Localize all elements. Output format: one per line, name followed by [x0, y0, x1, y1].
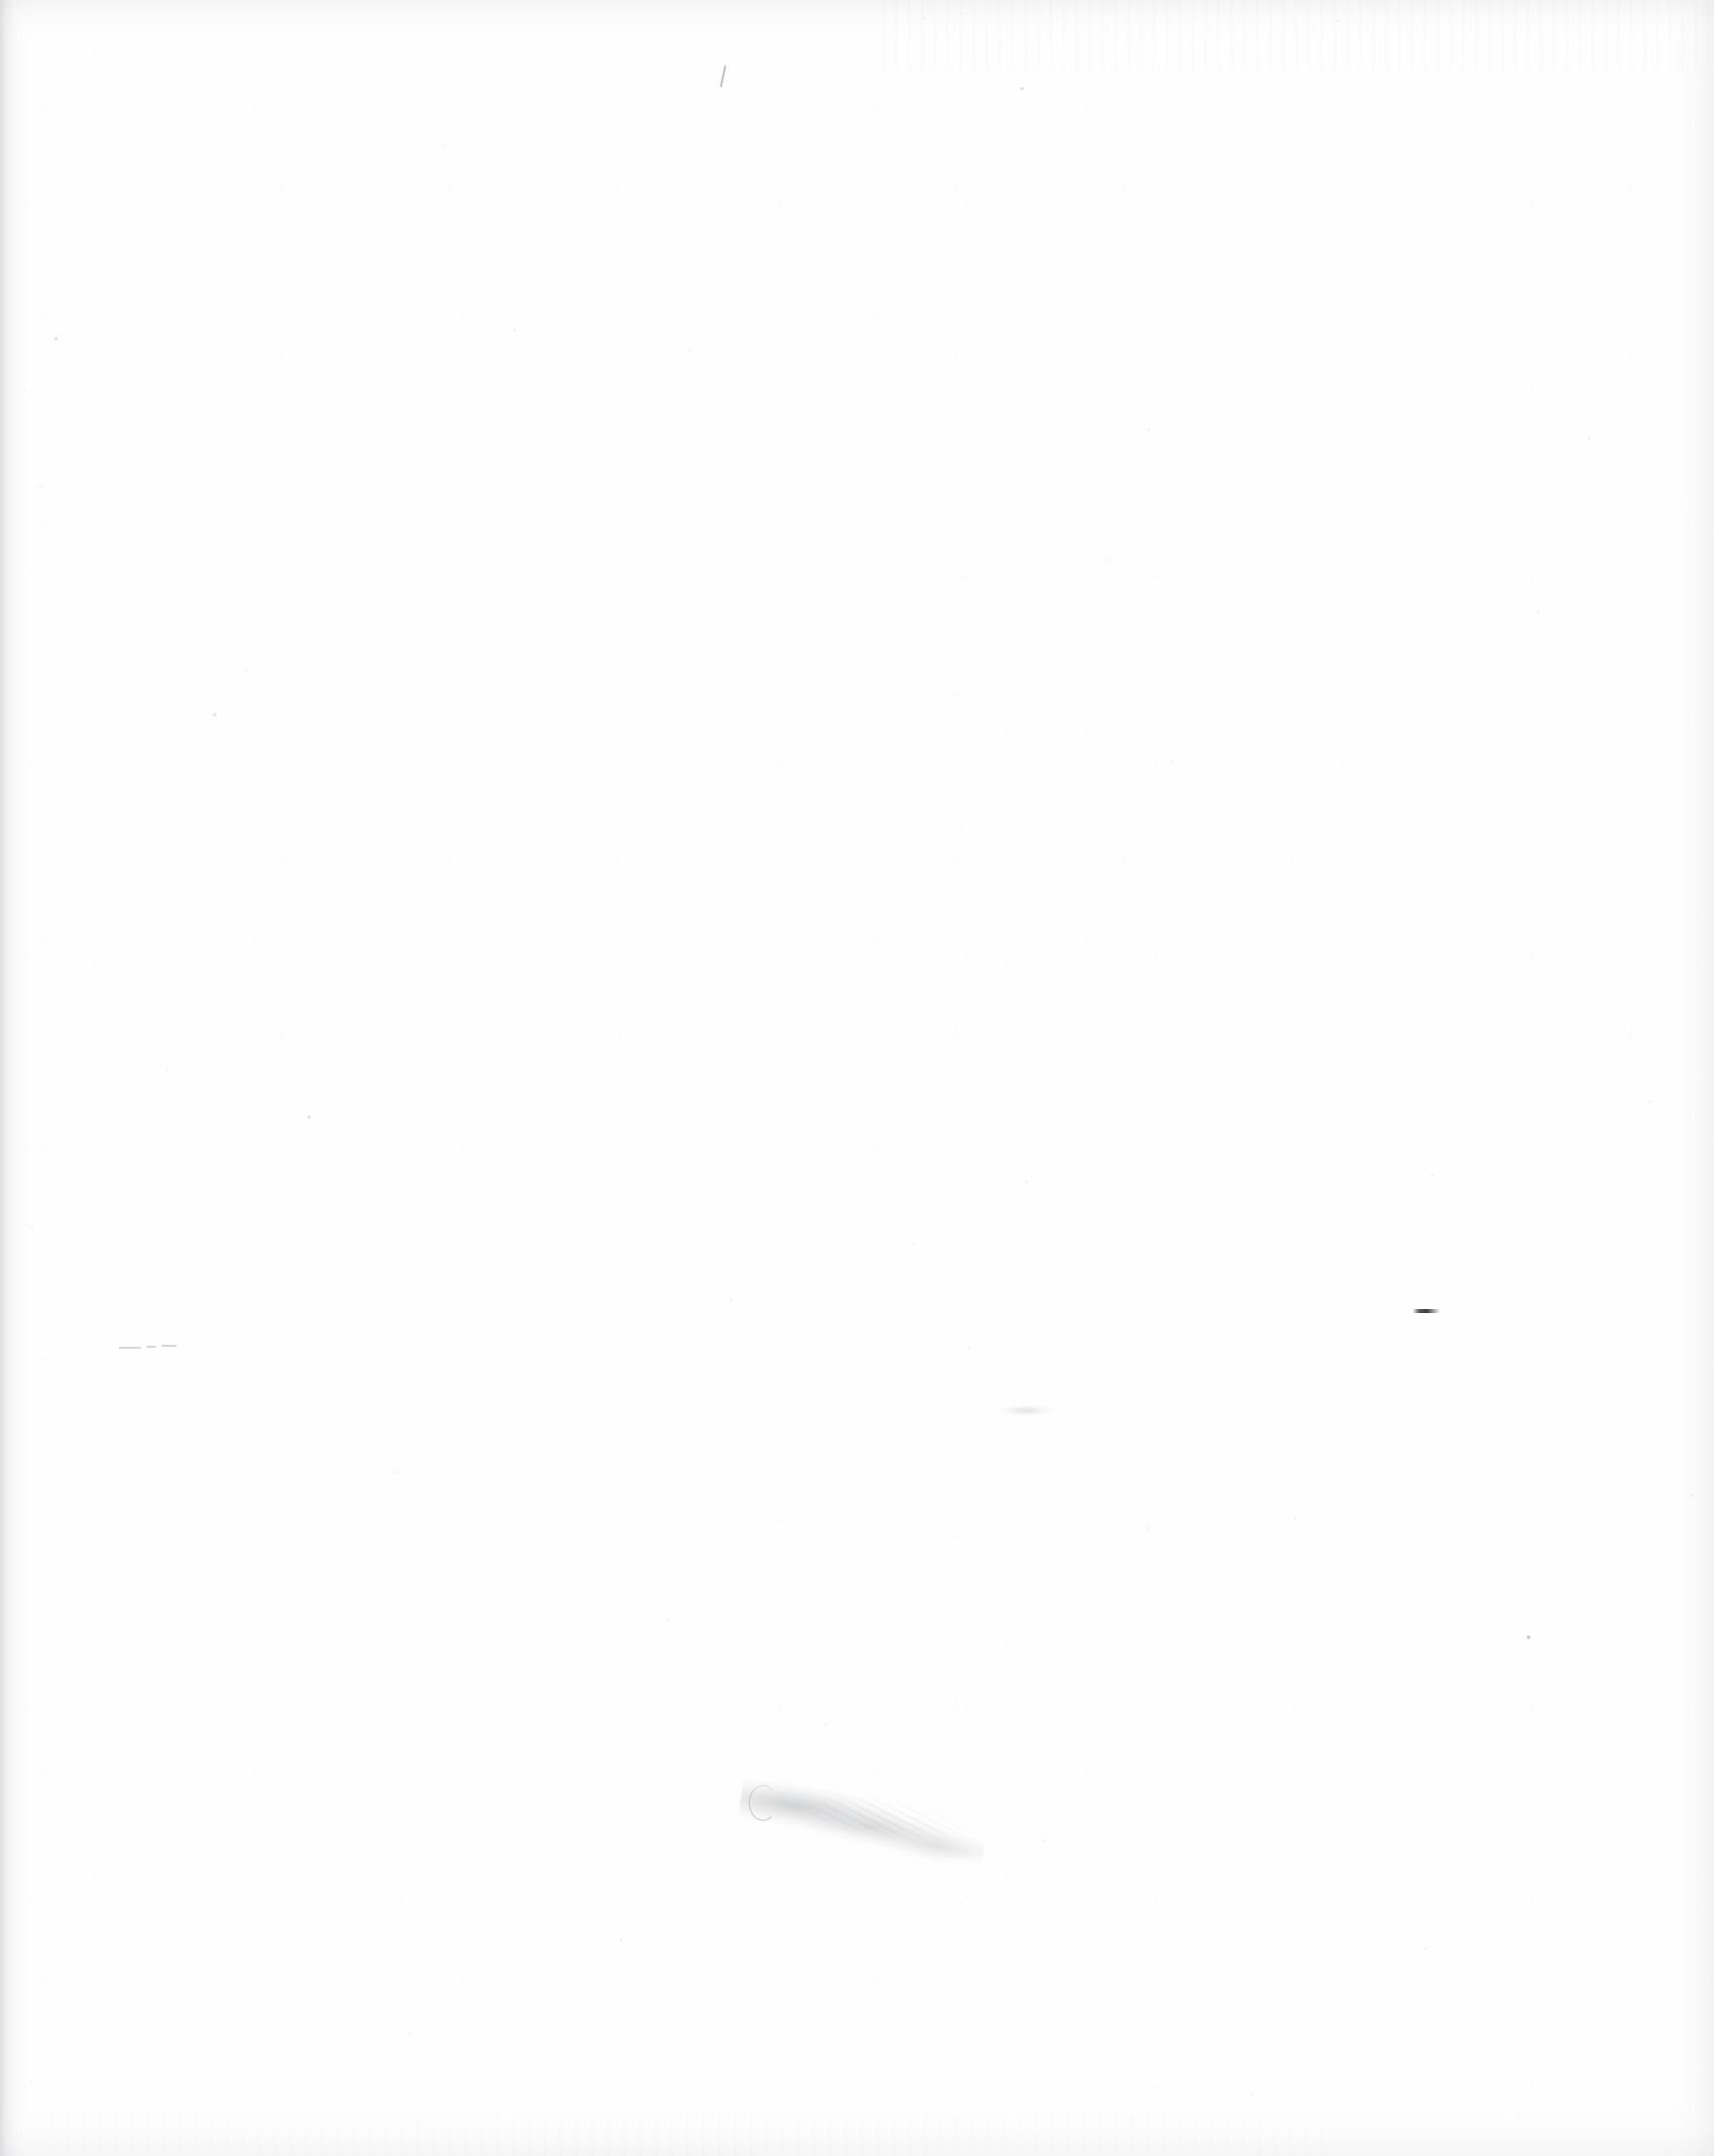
scanned-page — [0, 0, 1714, 2156]
paper-background — [0, 0, 1714, 2156]
